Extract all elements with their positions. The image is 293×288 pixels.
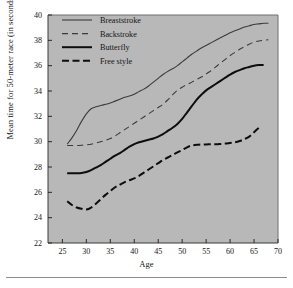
x-tick-label: 45	[154, 247, 162, 256]
x-tick-label: 30	[82, 247, 90, 256]
y-tick-label: 30	[34, 137, 42, 146]
footer-rule	[6, 277, 287, 278]
y-tick-label: 40	[34, 11, 42, 20]
y-tick-label: 26	[34, 188, 42, 197]
legend-label-0: Breaststroke	[100, 16, 141, 25]
legend-label-2: Butterfly	[100, 43, 130, 52]
x-tick-label: 60	[226, 247, 234, 256]
legend-label-1: Backstroke	[100, 30, 137, 39]
y-tick-label: 36	[34, 61, 42, 70]
x-tick-label: 35	[106, 247, 114, 256]
y-tick-label: 38	[34, 36, 42, 45]
x-tick-label: 70	[274, 247, 282, 256]
x-tick-label: 40	[130, 247, 138, 256]
y-tick-label: 22	[34, 239, 42, 248]
x-tick-label: 25	[58, 247, 66, 256]
legend-label-3: Free style	[100, 57, 132, 66]
x-tick-label: 65	[250, 247, 258, 256]
x-axis-title: Age	[0, 259, 293, 269]
y-tick-label: 34	[34, 87, 42, 96]
y-tick-label: 32	[34, 112, 42, 121]
y-tick-label: 24	[34, 213, 42, 222]
line-chart-svg: 2224262830323436384025303540455055606570…	[0, 0, 293, 256]
x-tick-label: 50	[178, 247, 186, 256]
x-tick-label: 55	[202, 247, 210, 256]
plot-area-wrapper: 2224262830323436384025303540455055606570…	[0, 0, 293, 256]
chart-figure: Mean time for 50-meter race (in seconds)…	[0, 0, 293, 288]
y-tick-label: 28	[34, 163, 42, 172]
